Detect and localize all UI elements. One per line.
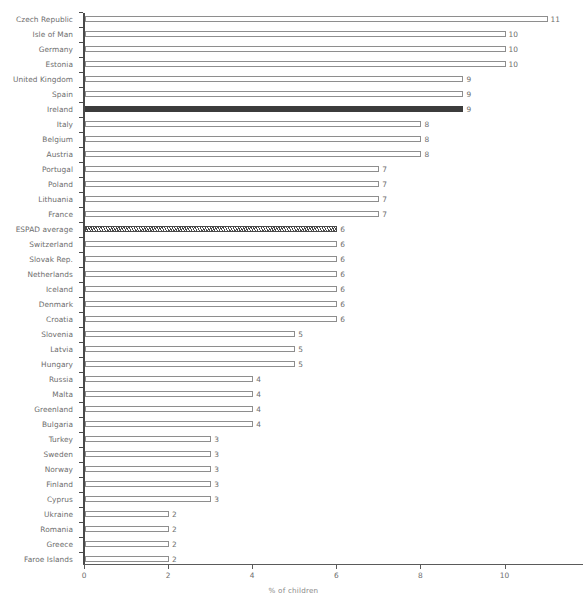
chart-row: Sweden3 xyxy=(0,447,587,462)
category-label: Sweden xyxy=(0,447,78,462)
bar xyxy=(85,166,379,172)
bar xyxy=(85,226,337,232)
bar-value-label: 3 xyxy=(214,463,219,476)
chart-row: Italy8 xyxy=(0,117,587,132)
category-label: Slovak Rep. xyxy=(0,252,78,267)
bar xyxy=(85,301,337,307)
category-label: Czech Republic xyxy=(0,12,78,27)
chart-row: Bulgaria4 xyxy=(0,417,587,432)
bar xyxy=(85,61,506,67)
bar xyxy=(85,451,211,457)
y-axis-line xyxy=(83,13,85,564)
category-label: Slovenia xyxy=(0,327,78,342)
chart-row: Ukraine2 xyxy=(0,507,587,522)
bar-value-label: 8 xyxy=(424,133,429,146)
bar-value-label: 6 xyxy=(340,223,345,236)
category-label: Finland xyxy=(0,477,78,492)
bar xyxy=(85,316,337,322)
bar xyxy=(85,46,506,52)
bar-value-label: 3 xyxy=(214,493,219,506)
category-label: Switzerland xyxy=(0,237,78,252)
category-label: Belgium xyxy=(0,132,78,147)
plot-area: Czech Republic11Isle of Man10Germany10Es… xyxy=(0,0,587,606)
x-axis-tick-label: 4 xyxy=(237,570,267,582)
category-label: Spain xyxy=(0,87,78,102)
bar-value-label: 11 xyxy=(551,13,560,26)
chart-row: Romania2 xyxy=(0,522,587,537)
chart-row: Germany10 xyxy=(0,42,587,57)
chart-row: Poland7 xyxy=(0,177,587,192)
chart-row: Greenland4 xyxy=(0,402,587,417)
x-axis-tick-label: 10 xyxy=(490,570,520,582)
bar-value-label: 8 xyxy=(424,118,429,131)
category-label: Greenland xyxy=(0,402,78,417)
category-label: United Kingdom xyxy=(0,72,78,87)
bar xyxy=(85,151,421,157)
x-axis-tick xyxy=(84,564,85,569)
chart-row: Portugal7 xyxy=(0,162,587,177)
category-label: ESPAD average xyxy=(0,222,78,237)
x-axis-tick xyxy=(505,564,506,569)
bar-value-label: 9 xyxy=(466,88,471,101)
category-label: Italy xyxy=(0,117,78,132)
category-label: Cyprus xyxy=(0,492,78,507)
bar xyxy=(85,286,337,292)
chart-row: Slovenia5 xyxy=(0,327,587,342)
bar-value-label: 3 xyxy=(214,433,219,446)
category-label: Latvia xyxy=(0,342,78,357)
bar-value-label: 4 xyxy=(256,388,261,401)
category-label: Isle of Man xyxy=(0,27,78,42)
category-label: Lithuania xyxy=(0,192,78,207)
bar-value-label: 4 xyxy=(256,418,261,431)
chart-row: Cyprus3 xyxy=(0,492,587,507)
bar xyxy=(85,196,379,202)
chart-row: Czech Republic11 xyxy=(0,12,587,27)
x-axis-tick-label: 2 xyxy=(153,570,183,582)
bar-value-label: 4 xyxy=(256,403,261,416)
bar-value-label: 3 xyxy=(214,478,219,491)
bar-value-label: 6 xyxy=(340,283,345,296)
chart-row: Turkey3 xyxy=(0,432,587,447)
chart-row: Greece2 xyxy=(0,537,587,552)
x-axis-line xyxy=(83,564,583,565)
bar xyxy=(85,91,463,97)
category-label: Poland xyxy=(0,177,78,192)
bar xyxy=(85,211,379,217)
category-label: Ireland xyxy=(0,102,78,117)
bar xyxy=(85,406,253,412)
bar-value-label: 7 xyxy=(382,163,387,176)
chart-row: ESPAD average6 xyxy=(0,222,587,237)
bar-value-label: 5 xyxy=(298,358,303,371)
category-label: Greece xyxy=(0,537,78,552)
bar xyxy=(85,241,337,247)
chart-row: Lithuania7 xyxy=(0,192,587,207)
bar-value-label: 6 xyxy=(340,268,345,281)
bar-value-label: 9 xyxy=(466,73,471,86)
category-label: Romania xyxy=(0,522,78,537)
category-label: Croatia xyxy=(0,312,78,327)
bar-value-label: 9 xyxy=(466,103,471,116)
bar xyxy=(85,121,421,127)
bar-value-label: 6 xyxy=(340,253,345,266)
bar xyxy=(85,391,253,397)
x-axis-tick xyxy=(168,564,169,569)
category-label: Germany xyxy=(0,42,78,57)
bar xyxy=(85,181,379,187)
bar xyxy=(85,466,211,472)
chart-row: Iceland6 xyxy=(0,282,587,297)
category-label: France xyxy=(0,207,78,222)
bar-value-label: 3 xyxy=(214,448,219,461)
chart-row: Malta4 xyxy=(0,387,587,402)
category-label: Denmark xyxy=(0,297,78,312)
chart-row: Belgium8 xyxy=(0,132,587,147)
chart-row: Croatia6 xyxy=(0,312,587,327)
x-axis-tick xyxy=(252,564,253,569)
category-label: Bulgaria xyxy=(0,417,78,432)
bar xyxy=(85,331,295,337)
chart-row: Hungary5 xyxy=(0,357,587,372)
category-label: Ukraine xyxy=(0,507,78,522)
bar xyxy=(85,421,253,427)
category-label: Norway xyxy=(0,462,78,477)
bar-value-label: 5 xyxy=(298,343,303,356)
bar xyxy=(85,361,295,367)
